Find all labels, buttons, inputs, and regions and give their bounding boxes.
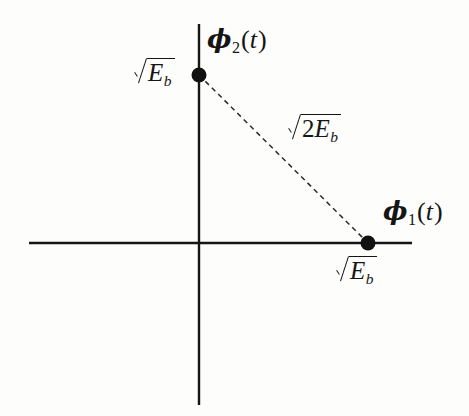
radical-glyph: 2Eb [288, 114, 341, 141]
phi2-open-paren: ( [241, 27, 250, 53]
radical-glyph: Eb [336, 256, 377, 283]
radicand-subscript: b [164, 72, 172, 89]
radicand: Eb [147, 58, 175, 85]
sqrt-eb-bottom-label: Eb [336, 256, 377, 286]
phi1-subscript: 1 [408, 212, 416, 228]
phi1-symbol: ϕ [383, 198, 407, 224]
phi1-close-paren: ) [434, 199, 443, 225]
radicand-subscript: b [366, 270, 374, 287]
radicand-coefficient: 2 [302, 115, 315, 142]
phi2-close-paren: ) [258, 27, 267, 53]
phi1-axis-label: ϕ1(t) [383, 198, 443, 225]
signal-point-s2 [192, 68, 207, 83]
radicand-subscript: b [330, 128, 338, 145]
phi1-open-paren: ( [417, 199, 426, 225]
signal-point-s1 [361, 236, 376, 251]
radicand-symbol: E [350, 257, 365, 284]
constellation-diagram: Eb ϕ2(t) 2Eb ϕ1(t) Eb [0, 0, 469, 416]
sqrt-2eb-label: 2Eb [288, 114, 341, 144]
radical-glyph: Eb [134, 58, 175, 85]
radicand: 2Eb [301, 114, 341, 141]
surd-icon [336, 256, 349, 282]
phi2-axis-label: ϕ2(t) [207, 26, 267, 53]
sqrt-eb-left-label: Eb [134, 58, 175, 88]
phi1-argument: t [426, 199, 433, 225]
radicand-symbol: E [148, 59, 163, 86]
phi2-symbol: ϕ [207, 26, 231, 52]
surd-icon [288, 114, 301, 140]
radicand-symbol: E [315, 115, 330, 142]
radicand: Eb [349, 256, 377, 283]
phi2-argument: t [250, 27, 257, 53]
distance-line [199, 75, 368, 243]
surd-icon [134, 58, 147, 84]
phi2-subscript: 2 [232, 40, 240, 56]
